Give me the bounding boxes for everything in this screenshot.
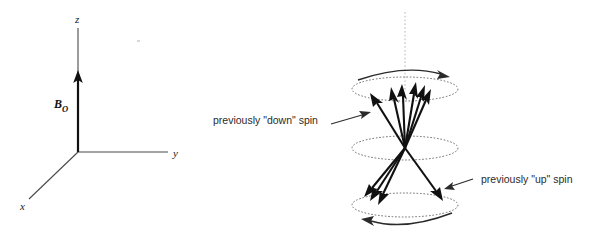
- callout-up-spin-label: previously "up" spin: [481, 173, 573, 185]
- scan-speck: [137, 40, 140, 42]
- x-axis-label: x: [19, 200, 25, 212]
- y-axis-label: y: [172, 147, 178, 159]
- callout-down-spin-label: previously "down" spin: [213, 114, 318, 126]
- z-axis-label: z: [74, 13, 80, 25]
- spin-precession-figure: z y x B O: [0, 0, 602, 231]
- b0-label-subscript: O: [62, 104, 68, 114]
- b0-label-symbol: B: [53, 97, 62, 111]
